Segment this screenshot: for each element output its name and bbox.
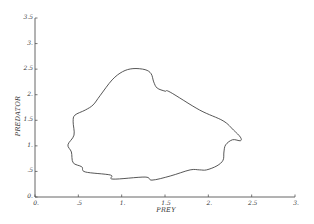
phase-plot: 0..51.1.52.2.53. 0..51.1.52.2.53.3.5 PRE… xyxy=(0,0,314,224)
x-tick-label: .5 xyxy=(76,199,82,206)
x-tick-label: 2.5 xyxy=(247,199,258,206)
y-tick-label: 1.5 xyxy=(23,115,33,122)
y-tick-label: 0. xyxy=(27,192,33,199)
series-group xyxy=(68,69,241,181)
x-tick-label: 1. xyxy=(120,199,126,206)
x-ticks: 0..51.1.52.2.53. xyxy=(33,195,299,207)
y-tick-label: 2.5 xyxy=(22,64,33,71)
series-line xyxy=(68,69,241,181)
y-axis-label: PREDATOR xyxy=(14,96,22,138)
x-axis-label: PREY xyxy=(155,206,176,214)
y-tick-label: 3.5 xyxy=(23,13,33,20)
y-tick-label: 1. xyxy=(27,141,33,148)
x-tick-label: 3. xyxy=(293,199,299,206)
y-tick-label: .5 xyxy=(27,166,33,173)
x-tick-label: 0. xyxy=(33,199,39,206)
x-tick-label: 2. xyxy=(205,199,212,206)
x-tick-label: 1.5 xyxy=(161,199,171,206)
y-tick-label: 3. xyxy=(27,39,33,46)
axes xyxy=(35,18,295,197)
y-tick-label: 2. xyxy=(26,90,33,97)
